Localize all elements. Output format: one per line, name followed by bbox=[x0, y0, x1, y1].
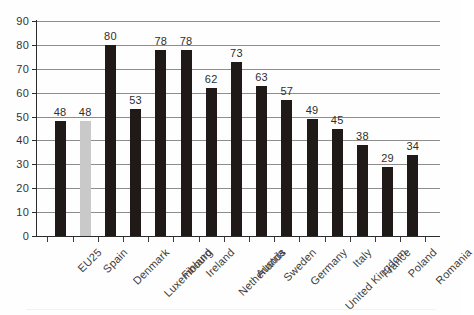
x-tick-mark bbox=[425, 237, 426, 242]
bar-value-label: 45 bbox=[331, 114, 344, 126]
y-tick-label: 30 bbox=[16, 158, 29, 170]
bar-italy bbox=[332, 129, 343, 237]
bar-value-label: 38 bbox=[356, 130, 369, 142]
gridline bbox=[37, 21, 440, 22]
x-axis-label-eu25: EU25 bbox=[75, 246, 104, 275]
bar-romania bbox=[407, 155, 418, 236]
x-tick-mark bbox=[98, 237, 99, 242]
page-bottom-rule bbox=[26, 309, 436, 310]
bar-spain bbox=[80, 121, 91, 236]
y-tick-mark bbox=[32, 21, 36, 22]
y-tick-label: 60 bbox=[16, 87, 29, 99]
bar-poland bbox=[382, 167, 393, 236]
y-tick-label: 80 bbox=[16, 39, 29, 51]
y-tick-mark bbox=[32, 236, 36, 237]
y-tick-mark bbox=[32, 69, 36, 70]
y-tick-label: 20 bbox=[16, 182, 29, 194]
y-tick-mark bbox=[32, 117, 36, 118]
x-tick-mark bbox=[274, 237, 275, 242]
bar-finland bbox=[155, 50, 166, 236]
x-tick-mark bbox=[148, 237, 149, 242]
y-tick-mark bbox=[32, 45, 36, 46]
x-axis-label-romania: Romania bbox=[433, 246, 474, 287]
bar-sweden bbox=[256, 86, 267, 237]
x-tick-mark bbox=[350, 237, 351, 242]
bar-value-label: 29 bbox=[381, 152, 394, 164]
bar-value-label: 57 bbox=[280, 85, 293, 97]
x-tick-mark bbox=[325, 237, 326, 242]
x-tick-mark bbox=[375, 237, 376, 242]
y-tick-label: 40 bbox=[16, 134, 29, 146]
x-axis-label-italy: Italy bbox=[350, 246, 373, 269]
x-tick-mark bbox=[249, 237, 250, 242]
y-tick-label: 10 bbox=[16, 206, 29, 218]
bar-value-label: 80 bbox=[104, 30, 117, 42]
y-tick-label: 0 bbox=[23, 230, 29, 242]
bar-value-label: 78 bbox=[154, 35, 167, 47]
bar-united-kingdom bbox=[307, 119, 318, 236]
bar-netherlands bbox=[206, 88, 217, 236]
bar-value-label: 53 bbox=[129, 94, 142, 106]
x-tick-mark bbox=[73, 237, 74, 242]
bar-value-label: 49 bbox=[306, 104, 319, 116]
y-tick-label: 50 bbox=[16, 111, 29, 123]
bar-value-label: 73 bbox=[230, 47, 243, 59]
x-tick-mark bbox=[47, 237, 48, 242]
y-axis-tick-labels: 9080706050403020100 bbox=[0, 0, 29, 315]
x-tick-mark bbox=[123, 237, 124, 242]
x-axis-label-spain: Spain bbox=[101, 246, 130, 275]
bar-austria bbox=[231, 62, 242, 236]
plot-area: 484880537878627363574945382934 bbox=[37, 21, 440, 236]
bar-value-label: 48 bbox=[54, 106, 67, 118]
bar-luxembourg bbox=[130, 109, 141, 236]
bar-ireland bbox=[181, 50, 192, 236]
bar-value-label: 78 bbox=[180, 35, 193, 47]
y-tick-mark bbox=[32, 188, 36, 189]
bar-value-label: 63 bbox=[255, 71, 268, 83]
y-tick-mark bbox=[32, 164, 36, 165]
bar-denmark bbox=[105, 45, 116, 236]
x-tick-mark bbox=[173, 237, 174, 242]
bar-eu25 bbox=[55, 121, 66, 236]
y-tick-mark bbox=[32, 93, 36, 94]
bar-germany bbox=[281, 100, 292, 236]
x-tick-mark bbox=[199, 237, 200, 242]
bar-value-label: 62 bbox=[205, 73, 218, 85]
x-tick-mark bbox=[299, 237, 300, 242]
bar-value-label: 48 bbox=[79, 106, 92, 118]
bar-value-label: 34 bbox=[406, 140, 419, 152]
y-tick-label: 70 bbox=[16, 63, 29, 75]
bar-france bbox=[357, 145, 368, 236]
x-axis-label-denmark: Denmark bbox=[131, 246, 172, 287]
x-tick-mark bbox=[224, 237, 225, 242]
y-tick-mark bbox=[32, 140, 36, 141]
x-tick-mark bbox=[400, 237, 401, 242]
y-tick-mark bbox=[32, 212, 36, 213]
y-tick-label: 90 bbox=[16, 15, 29, 27]
